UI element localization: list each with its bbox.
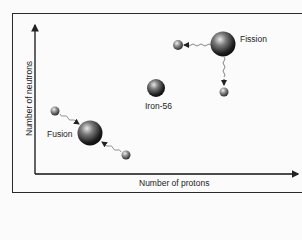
- iron-56-nucleus: [147, 79, 165, 97]
- x-axis-label: Number of protons: [139, 178, 209, 188]
- fusion-nucleus: [78, 121, 103, 146]
- fission-group: [173, 32, 236, 97]
- fusion-label: Fusion: [47, 129, 73, 139]
- fission-fragment-bottom: [220, 88, 229, 97]
- fission-fragment-left: [173, 40, 183, 50]
- fission-nucleus: [211, 32, 236, 57]
- iron-56-label: Iron-56: [145, 101, 172, 111]
- fission-label: Fission: [240, 34, 267, 44]
- fusion-input-top: [51, 107, 60, 116]
- y-axis-label: Number of neutrons: [24, 61, 34, 136]
- fusion-input-bottom: [122, 151, 131, 160]
